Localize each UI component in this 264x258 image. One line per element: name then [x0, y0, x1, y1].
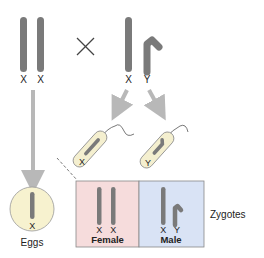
zygotes-label: Zygotes	[210, 209, 246, 220]
mother-chromosomes: X X	[20, 17, 44, 85]
female-x-chromosome-1	[97, 187, 102, 225]
sperm-y: Y	[137, 125, 188, 170]
sperm-y-label: Y	[145, 158, 151, 168]
mother-x-chromosome-2	[37, 17, 44, 72]
cross-icon	[77, 38, 94, 55]
father-chrom-label-2: Y	[144, 74, 151, 85]
mother-x-chromosome-1	[20, 17, 27, 72]
egg-x-chromosome	[30, 192, 35, 219]
egg: X Eggs	[10, 187, 54, 248]
female-label: Female	[91, 234, 124, 245]
female-x-chromosome-2	[111, 187, 116, 225]
father-to-y-sperm-arrow	[149, 90, 160, 110]
eggs-label: Eggs	[21, 237, 44, 248]
egg-chrom-label: X	[29, 221, 35, 231]
sperm-x: X	[70, 125, 134, 170]
sex-determination-diagram: X X X Y X Y	[0, 0, 264, 258]
sperm-x-label: X	[79, 157, 85, 167]
zygote-male-box: X Y Male	[139, 181, 204, 247]
father-to-x-sperm-arrow	[117, 90, 127, 110]
father-chrom-label-1: X	[125, 74, 132, 85]
father-y-chromosome	[147, 40, 159, 72]
father-x-chromosome	[125, 17, 132, 72]
mother-chrom-label-2: X	[37, 74, 44, 85]
father-chromosomes: X Y	[125, 17, 159, 85]
zygote-female-box: X X Female	[76, 181, 139, 247]
male-label: Male	[160, 234, 181, 245]
male-x-chromosome	[161, 187, 166, 225]
mother-chrom-label-1: X	[20, 74, 27, 85]
